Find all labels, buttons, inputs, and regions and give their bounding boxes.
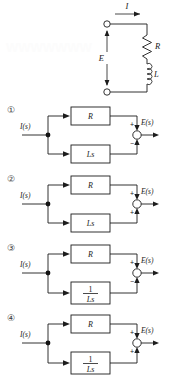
inductor-symbol [147, 63, 152, 84]
voltage-label: E [98, 53, 105, 63]
option-2-output-arrow [153, 201, 159, 206]
option-3-input-label: I(s) [19, 260, 31, 269]
option-2-number: ② [7, 174, 15, 184]
option-4-output-label: E(s) [140, 326, 154, 335]
current-arrow-head [134, 11, 140, 16]
option-3-bottom-sign: − [130, 278, 134, 285]
option-4-bottom-denominator: Ls [86, 365, 95, 374]
option-3-top-in-arrow [134, 263, 139, 269]
option-3-bottom-in-arrow [134, 277, 139, 283]
option-3-upper-arrow [63, 251, 70, 257]
option-1-bottom-block-label: Ls [86, 150, 95, 159]
option-1-lower-branch [48, 135, 66, 154]
option-1-upper-branch [48, 116, 66, 135]
wire-bottom [110, 84, 147, 92]
option-3-lower-branch [48, 273, 66, 293]
option-2-input-label: I(s) [19, 191, 31, 200]
option-2-top-in-arrow [134, 194, 139, 200]
option-4-bottom-numerator: 1 [89, 355, 93, 364]
wire-top [110, 24, 147, 33]
option-2-output-label: E(s) [140, 187, 154, 196]
terminal-bottom [104, 89, 110, 95]
option-1-top-block-label: R [87, 112, 93, 121]
option-3-summing-junction[interactable] [133, 269, 141, 277]
option-1-output-arrow [153, 132, 159, 137]
option-1-input-label: I(s) [19, 122, 31, 131]
option-2-top-sign: + [130, 190, 134, 197]
option-3-top-sign: + [130, 259, 134, 266]
option-1-summing-junction[interactable] [133, 131, 141, 139]
option-4-top-sign: + [130, 329, 134, 336]
option-3-upper-branch [48, 254, 66, 273]
resistor-symbol [143, 33, 152, 61]
option-3-output-label: E(s) [140, 256, 154, 265]
option-4-number: ④ [7, 313, 15, 323]
option-1-number: ① [7, 105, 15, 115]
option-3-top-block-label: R [87, 250, 93, 259]
option-4-output-arrow [153, 340, 159, 345]
option-3-bottom-denominator: Ls [86, 295, 95, 304]
option-4-lower-branch [48, 343, 66, 363]
option-1-top-sign: + [130, 121, 134, 128]
option-3-diagram[interactable]: ③ I(s) R 1 Ls + − E(s) [0, 237, 169, 309]
option-4-lower-arrow [63, 360, 70, 366]
option-1-diagram[interactable]: ① I(s) R Ls + − E(s) [0, 99, 169, 169]
option-3-bottom-numerator: 1 [89, 285, 93, 294]
rl-circuit-diagram: I E R L [0, 0, 169, 100]
option-2-lower-branch [48, 204, 66, 223]
option-2-upper-arrow [63, 182, 70, 188]
voltage-arrow-head-down [105, 80, 110, 86]
option-3-number: ③ [7, 243, 15, 253]
option-2-lower-arrow [63, 220, 70, 226]
option-1-output-label: E(s) [140, 118, 154, 127]
option-4-upper-arrow [63, 321, 70, 327]
option-4-diagram[interactable]: ④ I(s) R 1 Ls + + E(s) [0, 307, 169, 379]
resistor-label: R [154, 41, 161, 51]
option-4-top-in-arrow [134, 333, 139, 339]
voltage-label-mask [104, 52, 111, 64]
option-1-bottom-sign: − [130, 140, 134, 147]
option-2-diagram[interactable]: ② I(s) R Ls + + E(s) [0, 168, 169, 238]
option-2-upper-branch [48, 185, 66, 204]
option-1-upper-arrow [63, 113, 70, 119]
option-4-bottom-sign: + [130, 348, 134, 355]
current-label: I [125, 1, 130, 11]
option-1-top-in-arrow [134, 125, 139, 131]
voltage-arrow-head-up [105, 30, 110, 36]
option-2-bottom-in-arrow [134, 208, 139, 214]
option-4-top-block-label: R [87, 320, 93, 329]
option-3-lower-arrow [63, 290, 70, 296]
inductor-label: L [153, 69, 159, 79]
option-1-bottom-in-arrow [134, 139, 139, 145]
option-2-bottom-sign: + [130, 209, 134, 216]
option-1-lower-arrow [63, 151, 70, 157]
option-2-top-block-label: R [87, 181, 93, 190]
option-2-bottom-block-label: Ls [86, 219, 95, 228]
option-4-input-label: I(s) [19, 330, 31, 339]
option-4-bottom-in-arrow [134, 347, 139, 353]
option-3-output-arrow [153, 270, 159, 275]
option-4-summing-junction[interactable] [133, 339, 141, 347]
terminal-top [104, 21, 110, 27]
figure-page: WWWWWWW I E R L ① I(s) [0, 0, 169, 379]
option-2-summing-junction[interactable] [133, 200, 141, 208]
option-4-upper-branch [48, 324, 66, 343]
